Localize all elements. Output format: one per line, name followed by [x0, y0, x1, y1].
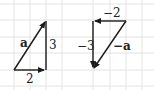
vector-neg-a-label: −a: [113, 40, 131, 52]
neg-horizontal-component-label: −2: [103, 7, 121, 19]
neg-vertical-component-label: −3: [77, 40, 95, 52]
horizontal-component-label: 2: [26, 73, 34, 85]
vertical-component-label: 3: [49, 39, 57, 51]
vector-a-label: a: [20, 37, 28, 49]
